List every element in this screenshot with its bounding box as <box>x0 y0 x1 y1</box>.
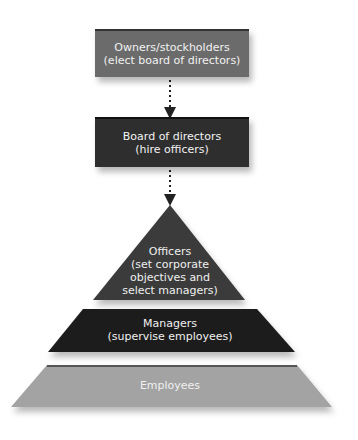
employees-label: Employees <box>70 379 270 392</box>
board-box: Board of directors (hire officers) <box>95 117 249 167</box>
officers-role-1: (set corporate <box>110 258 230 271</box>
managers-title: Managers <box>70 317 270 330</box>
owners-title: Owners/stockholders <box>95 41 249 54</box>
employees-title: Employees <box>70 379 270 392</box>
managers-role: (supervise employees) <box>70 330 270 343</box>
board-role: (hire officers) <box>95 143 249 156</box>
owners-role: (elect board of directors) <box>95 54 249 67</box>
officers-role-2: objectives and <box>110 271 230 284</box>
board-title: Board of directors <box>95 130 249 143</box>
managers-label: Managers (supervise employees) <box>70 317 270 343</box>
officers-title: Officers <box>110 245 230 258</box>
owners-box: Owners/stockholders (elect board of dire… <box>95 29 249 77</box>
officers-label: Officers (set corporate objectives and s… <box>110 245 230 297</box>
officers-role-3: select managers) <box>110 284 230 297</box>
